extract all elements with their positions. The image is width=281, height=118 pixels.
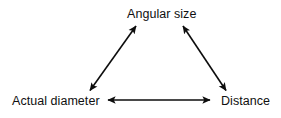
connector-actual-diameter-to-angular-size [90, 26, 136, 91]
node-label-angular-size: Angular size [127, 8, 196, 21]
node-label-actual-diameter: Actual diameter [12, 95, 100, 108]
node-label-distance: Distance [221, 95, 270, 108]
diagram-canvas: Angular size Actual diameter Distance [0, 0, 281, 118]
connector-angular-size-to-distance [183, 26, 226, 91]
